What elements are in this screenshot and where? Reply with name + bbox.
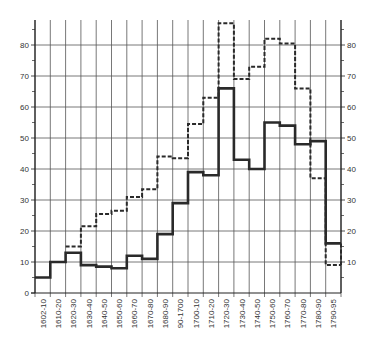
- x-tick-label: 90-1700: [176, 298, 185, 328]
- y-tick-label-left: 0: [25, 289, 30, 298]
- y-tick-label-left: 20: [20, 227, 29, 236]
- x-tick-label: 1610-20: [54, 298, 63, 328]
- y-tick-label-left: 80: [20, 41, 29, 50]
- y-tick-label-left: 70: [20, 72, 29, 81]
- y-tick-label-right: 60: [347, 103, 356, 112]
- y-tick-label-right: 20: [347, 227, 356, 236]
- y-tick-label-left: 50: [20, 134, 29, 143]
- x-tick-label: 1680-90: [161, 298, 170, 328]
- x-tick-label: 1720-30: [222, 298, 231, 328]
- x-tick-label: 1620-30: [69, 298, 78, 328]
- x-tick-label: 1760-70: [283, 298, 292, 328]
- y-tick-label-left: 40: [20, 165, 29, 174]
- x-tick-label: 1730-40: [238, 298, 247, 328]
- x-tick-label: 1790-95: [329, 298, 338, 328]
- x-tick-label: 1670-80: [146, 298, 155, 328]
- x-tick-label: 1700-10: [192, 298, 201, 328]
- y-tick-label-left: 30: [20, 196, 29, 205]
- x-tick-label: 1780-90: [314, 298, 323, 328]
- x-tick-label: 1770-80: [299, 298, 308, 328]
- x-tick-label: 1660-70: [130, 298, 139, 328]
- x-tick-label: 1750-60: [268, 298, 277, 328]
- x-tick-label: 1710-20: [207, 298, 216, 328]
- y-tick-label-right: 10: [347, 258, 356, 267]
- y-tick-label-right: 30: [347, 196, 356, 205]
- y-tick-label-right: 40: [347, 165, 356, 174]
- y-tick-label-right: 80: [347, 41, 356, 50]
- x-tick-label: 1630-40: [85, 298, 94, 328]
- x-tick-label: 1640-50: [100, 298, 109, 328]
- y-tick-label-left: 10: [20, 258, 29, 267]
- y-tick-label-left: 60: [20, 103, 29, 112]
- x-tick-label: 1740-50: [253, 298, 262, 328]
- y-tick-label-right: 70: [347, 72, 356, 81]
- step-chart: 0102030405060708010203040506070801602-10…: [0, 0, 372, 347]
- y-tick-label-right: 50: [347, 134, 356, 143]
- x-tick-label: 1650-60: [115, 298, 124, 328]
- x-tick-label: 1602-10: [39, 298, 48, 328]
